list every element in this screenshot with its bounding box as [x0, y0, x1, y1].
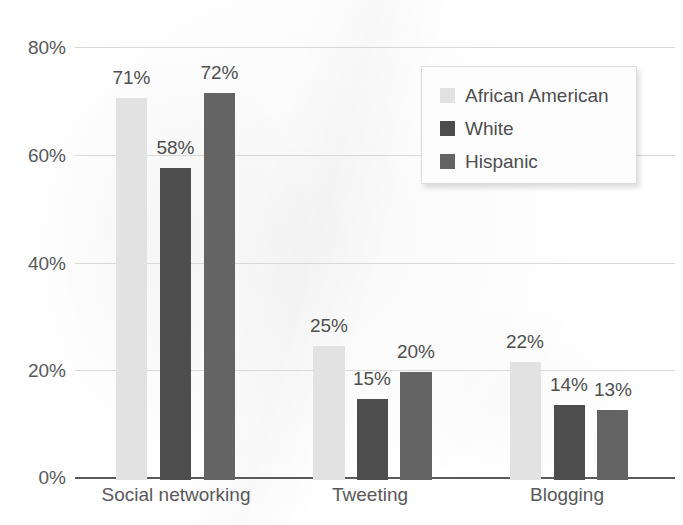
bar-tweeting-african-american[interactable] [313, 346, 345, 480]
value-label-blogging-african-american: 22% [490, 331, 560, 353]
bar-social-networking-white[interactable] [160, 168, 191, 480]
legend-item-hispanic[interactable]: Hispanic [440, 145, 636, 178]
y-tick-label-20: 20% [0, 360, 66, 382]
legend-label-white: White [465, 118, 514, 140]
gridline-80 [75, 47, 675, 48]
bar-tweeting-white[interactable] [357, 399, 388, 480]
y-tick-label-60: 60% [0, 145, 66, 167]
legend-label-african-american: African American [465, 85, 609, 107]
legend-label-hispanic: Hispanic [465, 151, 538, 173]
legend-swatch-icon-hispanic [440, 154, 455, 169]
legend-swatch-icon-white [440, 121, 455, 136]
x-tick-label-blogging: Blogging [472, 484, 662, 506]
legend-swatch-icon-african-american [440, 88, 455, 103]
value-label-social-networking-hispanic: 72% [184, 62, 255, 84]
value-label-tweeting-african-american: 25% [294, 315, 364, 337]
value-label-blogging-hispanic: 13% [578, 379, 648, 401]
x-tick-label-social-networking: Social networking [66, 484, 286, 506]
value-label-social-networking-white: 58% [140, 137, 211, 159]
bar-blogging-white[interactable] [554, 405, 585, 480]
legend: African American White Hispanic [421, 66, 637, 184]
y-tick-label-80: 80% [0, 37, 66, 59]
y-tick-label-0: 0% [0, 467, 66, 489]
bar-chart: 80% 60% 40% 20% 0% 71% 58% 72% 25% 15% 2… [0, 0, 683, 525]
legend-item-african-american[interactable]: African American [440, 79, 636, 112]
x-tick-label-tweeting: Tweeting [275, 484, 465, 506]
y-tick-label-40: 40% [0, 253, 66, 275]
value-label-tweeting-white: 15% [337, 368, 407, 390]
bar-blogging-hispanic[interactable] [597, 410, 628, 480]
value-label-tweeting-hispanic: 20% [381, 341, 451, 363]
legend-item-white[interactable]: White [440, 112, 636, 145]
value-label-social-networking-african-american: 71% [96, 67, 167, 89]
